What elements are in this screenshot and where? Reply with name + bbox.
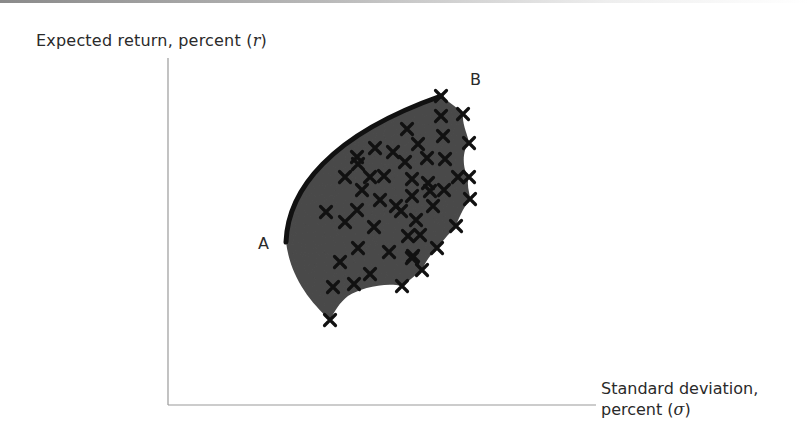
plot-area	[0, 0, 809, 448]
point-b-label: B	[470, 70, 481, 89]
point-a-label: A	[258, 234, 269, 253]
feasible-region	[286, 96, 470, 320]
